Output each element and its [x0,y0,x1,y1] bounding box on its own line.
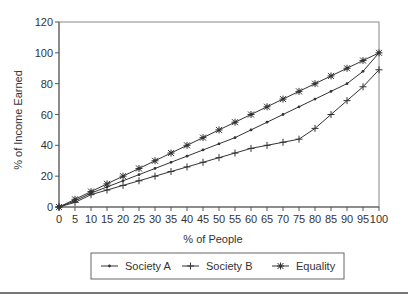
x-tick-label: 65 [261,213,273,225]
data-point-society-b [248,145,255,152]
data-point-equality [136,165,143,172]
data-point-society-a [250,129,253,132]
data-point-equality [168,150,175,157]
data-point-society-b [136,177,143,184]
legend-marker [108,265,111,268]
data-point-society-a [362,70,365,73]
x-tick-label: 35 [165,213,177,225]
x-tick-label: 80 [309,213,321,225]
x-tick-label: 95 [357,213,369,225]
data-point-equality [328,72,335,79]
data-point-society-a [154,167,157,170]
y-axis-title: % of Income Earned [12,70,24,170]
y-tick-label: 120 [35,16,53,28]
data-point-equality [152,157,159,164]
data-point-equality [296,88,303,95]
y-tick-label: 20 [41,170,53,182]
data-point-society-b [120,182,127,189]
data-point-society-a [202,149,205,152]
data-point-equality [104,180,111,187]
data-point-equality [344,65,351,72]
data-point-society-b [296,136,303,143]
data-point-society-b [264,142,271,149]
data-point-equality [88,188,95,195]
data-point-equality [264,103,271,110]
y-tick-label: 40 [41,139,53,151]
data-point-equality [248,111,255,118]
data-point-society-a [170,161,173,164]
data-point-equality [216,126,223,133]
x-tick-label: 90 [341,213,353,225]
x-tick-label: 75 [293,213,305,225]
data-point-equality [56,204,63,211]
legend-label: Society A [125,260,172,272]
x-tick-label: 45 [197,213,209,225]
x-tick-label: 10 [85,213,97,225]
y-tick-label: 80 [41,78,53,90]
data-point-society-a [346,82,349,85]
data-point-society-a [234,136,237,139]
x-tick-label: 0 [56,213,62,225]
data-point-equality [232,119,239,126]
x-tick-label: 15 [101,213,113,225]
data-point-equality [200,134,207,141]
legend-marker [277,263,284,270]
x-tick-label: 30 [149,213,161,225]
series-society-b [56,66,383,210]
series-equality [56,49,383,210]
data-point-equality [184,142,191,149]
data-point-society-b [280,139,287,146]
income-distribution-chart: 020406080100120 051015202530354045505560… [0,0,408,296]
data-point-society-a [122,179,125,182]
data-point-equality [280,96,287,103]
data-point-society-b [200,159,207,166]
series-layer [56,49,383,210]
y-tick-label: 60 [41,109,53,121]
data-point-society-a [138,173,141,176]
data-point-equality [360,57,367,64]
x-tick-label: 55 [229,213,241,225]
legend-label: Equality [296,260,336,272]
data-point-society-a [330,90,333,93]
data-point-society-a [282,113,285,116]
data-point-equality [312,80,319,87]
y-axis: 020406080100120 [35,16,59,213]
x-tick-label: 40 [181,213,193,225]
data-point-equality [72,196,79,203]
legend-label: Society B [206,260,252,272]
data-point-equality [376,49,383,56]
x-tick-label: 25 [133,213,145,225]
data-point-society-a [298,105,301,108]
x-axis-title: % of People [183,233,242,245]
data-point-society-b [168,168,175,175]
x-tick-label: 50 [213,213,225,225]
data-point-society-a [314,98,317,101]
data-point-society-b [232,150,239,157]
x-tick-label: 20 [117,213,129,225]
data-point-society-a [218,142,221,145]
x-tick-label: 60 [245,213,257,225]
data-point-society-b [184,163,191,170]
x-tick-label: 5 [72,213,78,225]
legend: Society ASociety BEquality [91,253,344,279]
x-tick-label: 70 [277,213,289,225]
data-point-equality [120,173,127,180]
y-tick-label: 0 [47,201,53,213]
x-tick-label: 100 [370,213,388,225]
data-point-society-b [216,154,223,161]
data-point-society-a [186,155,189,158]
y-tick-label: 100 [35,47,53,59]
data-point-society-b [152,173,159,180]
x-tick-label: 85 [325,213,337,225]
x-axis: 0510152025303540455055606570758085909510… [56,207,388,225]
data-point-society-a [266,121,269,124]
